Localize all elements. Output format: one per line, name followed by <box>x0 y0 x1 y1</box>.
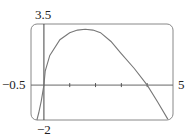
curve-line <box>37 29 168 120</box>
plot-frame <box>31 24 173 120</box>
chart: 3.5 −2 −0.5 5 <box>0 0 191 139</box>
y-max-label: 3.5 <box>35 7 51 22</box>
y-min-label: −2 <box>37 122 51 137</box>
x-max-label: 5 <box>178 77 185 92</box>
x-min-label: −0.5 <box>2 77 26 92</box>
